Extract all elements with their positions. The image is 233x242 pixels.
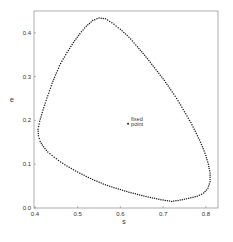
x-tick-label: 0.4	[31, 211, 40, 217]
x-axis-label: s	[122, 218, 126, 225]
fixed-point-marker	[127, 123, 129, 125]
y-tick-label: 0.1	[23, 161, 32, 167]
x-tick-label: 0.5	[74, 211, 83, 217]
x-tick-label: 0.7	[159, 211, 168, 217]
limit-cycle-chart: 0.40.50.60.70.8 0.00.10.20.30.4 fixedpoi…	[0, 0, 233, 242]
x-tick-label: 0.6	[116, 211, 125, 217]
y-tick-label: 0.2	[23, 117, 32, 123]
plot-frame	[34, 11, 218, 208]
annotations: fixedpoint	[127, 116, 143, 128]
orbit-series	[37, 17, 211, 202]
y-tick-label: 0.3	[23, 74, 32, 80]
y-axis-label: e	[10, 96, 14, 103]
y-tick-label: 0.0	[23, 205, 32, 211]
y-tick-label: 0.4	[23, 30, 32, 36]
x-tick-label: 0.8	[202, 211, 211, 217]
fixed-point-label: point	[131, 121, 143, 127]
